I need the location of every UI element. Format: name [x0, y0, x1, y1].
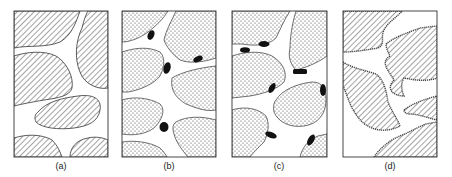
panel-label: (b) — [164, 161, 175, 171]
grains-dotted — [122, 11, 216, 157]
panel-label: (c) — [274, 161, 285, 171]
panel-label: (d) — [385, 161, 396, 171]
panel-c: (c) — [232, 11, 327, 171]
panel-b: (b) — [122, 11, 216, 171]
figure: (a) (b) — [0, 0, 452, 177]
grains-hatched — [14, 11, 108, 157]
panel-d: (d) — [343, 11, 437, 171]
grains-hatched — [343, 11, 437, 157]
panel-a: (a) — [14, 11, 108, 171]
panel-label: (a) — [56, 161, 67, 171]
